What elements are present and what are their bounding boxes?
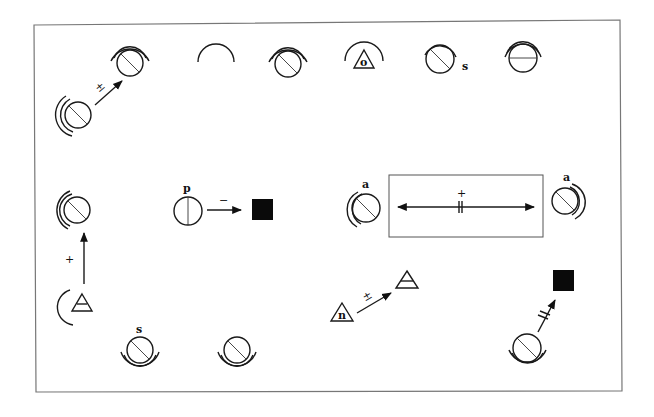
symbol-circle-diagonal-6: [509, 334, 546, 363]
diagram-canvas: ± o s +: [0, 0, 654, 417]
symbol-circle-horizontal: [505, 42, 541, 72]
svg-text:a: a: [563, 171, 570, 184]
symbol-filled-square-2: [553, 270, 574, 291]
symbol-circle-diagonal-a-left: a: [347, 178, 380, 227]
svg-text:s: s: [136, 323, 142, 336]
sign-minus: −: [219, 194, 228, 207]
symbol-circle-diagonal-1: [56, 96, 91, 136]
symbol-circle-diagonal-s: s: [425, 45, 468, 73]
symbol-circle-diagonal-a-right: a: [552, 171, 585, 219]
symbol-circle-diagonal-5: [218, 337, 256, 366]
svg-text:a: a: [362, 178, 369, 191]
symbol-arc-only: [198, 44, 234, 62]
symbol-triangle-o: o: [345, 42, 383, 69]
symbol-circle-diagonal-4: [57, 191, 90, 229]
symbol-circle-diagonal-2: [111, 47, 149, 76]
svg-text:p: p: [183, 182, 191, 195]
symbol-circle-vertical-p: p: [174, 182, 202, 225]
symbol-triangle-bar-arc: [57, 290, 92, 325]
sign-pm-2: ±: [360, 288, 374, 304]
symbol-triangle-n: n: [331, 303, 353, 322]
sign-pm-1: ±: [92, 79, 107, 95]
svg-text:o: o: [360, 56, 367, 69]
sign-plus-1: +: [65, 253, 74, 266]
symbol-circle-diagonal-s-bottom: s: [121, 323, 159, 366]
symbol-triangle-bar: [396, 271, 418, 288]
sign-plus-box: +: [457, 187, 466, 200]
symbol-filled-square-1: [252, 199, 273, 220]
symbol-circle-diagonal-3: [269, 48, 307, 77]
relation-box: [389, 175, 543, 237]
svg-text:n: n: [338, 309, 346, 322]
svg-text:s: s: [462, 60, 468, 73]
